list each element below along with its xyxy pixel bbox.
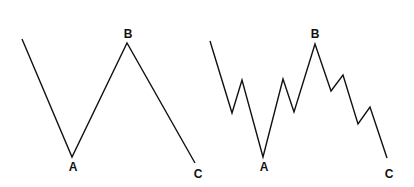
wave-line [210,41,387,158]
wave-line [22,39,195,163]
label-c: C [194,167,203,181]
label-a: A [260,160,269,174]
label-b: B [311,27,320,41]
label-c: C [385,167,394,181]
wave-diagrams: A B C A B C [0,0,414,187]
detailed-abc-diagram: A B C [210,27,394,181]
label-a: A [69,160,78,174]
simple-abc-diagram: A B C [22,27,203,181]
label-b: B [124,27,133,41]
